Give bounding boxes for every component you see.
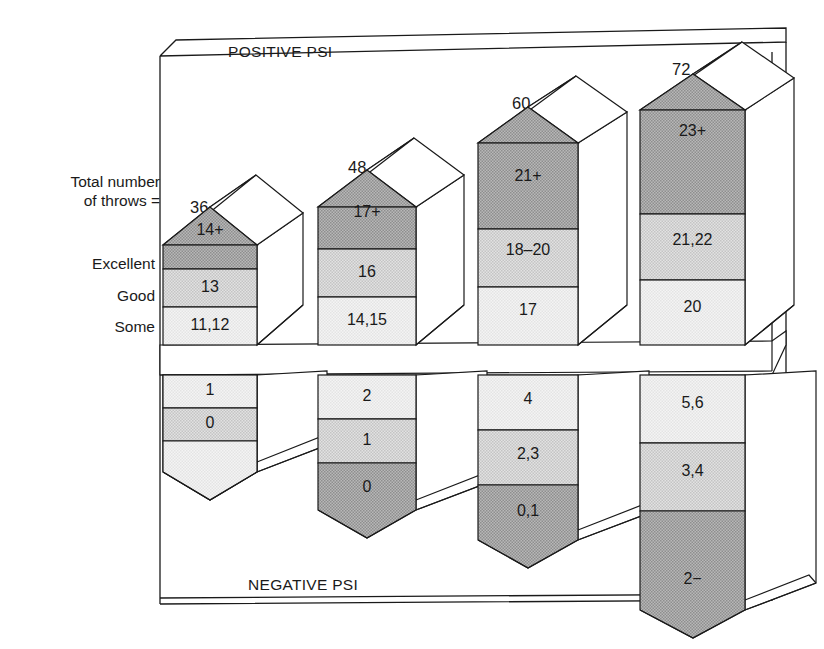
column-2-neg-label-2: 1: [318, 431, 416, 449]
column-1-seg-excellent: [163, 245, 257, 269]
column-4-neg-label-2: 3,4: [640, 462, 745, 480]
column-2-label-excellent: 17+: [318, 203, 416, 221]
column-4-side-face: [745, 78, 794, 345]
column-3-label-good: 18–20: [478, 241, 578, 259]
column-1-neg-label-2: 0: [163, 414, 257, 432]
column-1-neg-label-1: 1: [163, 381, 257, 399]
column-4-label-some: 20: [640, 298, 745, 316]
column-4-neg-side: [745, 371, 816, 610]
column-2-neg-label-3: 0: [318, 478, 416, 496]
column-3-neg-label-1: 4: [478, 390, 578, 408]
column-2-neg-side: [416, 371, 487, 510]
column-4-label-excellent: 23+: [640, 122, 745, 140]
column-2-neg-seg-3: [318, 463, 416, 538]
column-3-neg-label-2: 2,3: [478, 445, 578, 463]
column-3-neg-label-3: 0,1: [478, 502, 578, 520]
column-3-side-face: [578, 112, 627, 345]
column-3-seg-excellent: [478, 143, 578, 229]
column-4-neg-label-3: 2−: [640, 570, 745, 588]
column-3-neg-side: [578, 371, 649, 540]
column-3-label-some: 17: [478, 301, 578, 319]
column-1-neg-seg-3: [163, 441, 257, 500]
column-1-label-good: 13: [163, 278, 257, 296]
column-4-neg-label-1: 5,6: [640, 394, 745, 412]
psi-chart-figure: Total number of throws = Excellent Good …: [0, 0, 824, 649]
column-3-label-excellent: 21+: [478, 167, 578, 185]
column-4-label-good: 21,22: [640, 231, 745, 249]
column-1-neg-side: [257, 371, 327, 472]
column-1-label-some: 11,12: [163, 316, 257, 334]
column-1-label-excellent: 14+: [163, 221, 257, 239]
column-2-label-good: 16: [318, 263, 416, 281]
column-2-neg-label-1: 2: [318, 387, 416, 405]
column-3-neg-seg-3: [478, 485, 578, 568]
column-2-label-some: 14,15: [318, 311, 416, 329]
